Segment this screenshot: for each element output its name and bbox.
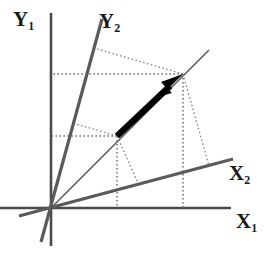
y1-axis-label-subscript: 1 [28,19,34,33]
projection-head-to-x2 [183,74,209,166]
y1-axis-label-base: Y [13,7,28,31]
y2-axis-label: Y2 [99,11,120,32]
x2-axis-label-base: X [229,161,244,185]
x1-axis-label: X1 [236,211,257,232]
x2-axis-label-subscript: 2 [244,173,250,187]
y2-axis-label-subscript: 2 [114,21,120,35]
projection-head-to-y2 [94,48,183,74]
x1-axis-label-base: X [236,209,251,233]
projection-tail-to-x2 [117,136,138,183]
diagram-canvas [0,0,274,257]
y2-axis-label-base: Y [99,9,114,33]
y1-axis-label: Y1 [13,9,34,30]
coordinate-rotation-diagram: Y1 Y2 X2 X1 [0,0,274,257]
x2-axis-label: X2 [229,163,250,184]
projection-tail-to-y2 [76,124,117,136]
x1-axis-label-subscript: 1 [251,221,257,235]
